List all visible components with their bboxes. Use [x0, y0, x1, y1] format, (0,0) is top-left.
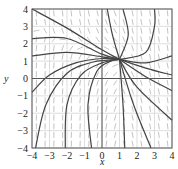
x-tick-label: −2 [62, 150, 73, 161]
y-tick-label: 4 [23, 4, 28, 15]
axes [32, 9, 172, 148]
x-tick-label: −4 [27, 150, 38, 161]
y-tick-label: −1 [17, 90, 28, 101]
y-tick-label: 1 [23, 56, 28, 67]
x-tick-label: 1 [117, 150, 122, 161]
x-tick-label: −3 [44, 150, 55, 161]
y-tick-label: 0 [23, 73, 28, 84]
x-tick-label: 3 [152, 150, 157, 161]
x-tick-label: 4 [170, 150, 175, 161]
x-axis-label: x [99, 156, 105, 167]
slope-field-chart: −4−3−2−101234−4−3−2−101234 x y [0, 0, 178, 169]
y-tick-label: 2 [23, 38, 28, 49]
y-tick-label: −3 [17, 125, 28, 136]
solution-9 [120, 9, 129, 59]
solution-8 [107, 9, 119, 59]
y-axis-label: y [3, 73, 9, 84]
x-tick-label: −1 [79, 150, 90, 161]
solution-5 [36, 59, 120, 148]
solution-1 [32, 9, 120, 59]
y-tick-label: 3 [23, 21, 28, 32]
y-tick-label: −2 [17, 108, 28, 119]
solution-7 [88, 59, 120, 148]
x-tick-label: 2 [135, 150, 140, 161]
solution-6 [65, 59, 119, 148]
y-tick-label: −4 [17, 143, 28, 154]
